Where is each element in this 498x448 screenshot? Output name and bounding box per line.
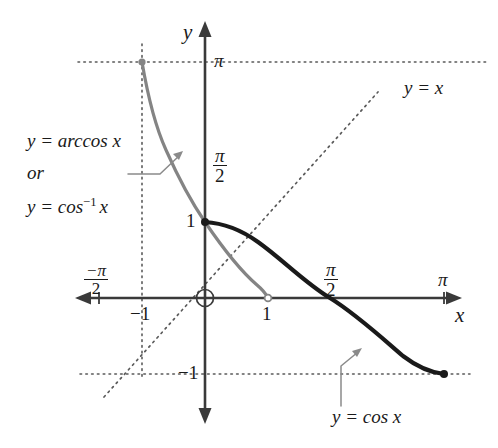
arccos-endpoint-left — [138, 58, 145, 65]
plot-area — [0, 0, 498, 448]
x-tick-label-minus-pi-over-2: −π 2 — [84, 262, 108, 298]
cosine-curve-label: y = cos x — [332, 407, 401, 426]
y-axis-label: y — [183, 22, 192, 43]
y-tick-pi-over-2-numerator: π — [213, 146, 227, 165]
x-tick-label-minus-one: −1 — [130, 304, 150, 323]
x-tick-label-one: 1 — [262, 304, 272, 323]
identity-line-label: y = x — [404, 78, 443, 97]
math-figure: y x π π 2 1 −1 1 −1 π π 2 −π 2 y = arcco… — [0, 0, 498, 448]
x-tick-label-pi-over-2: π 2 — [324, 260, 338, 300]
arccos-label-line-3: y = cos−1x — [27, 196, 108, 216]
x-axis-label: x — [455, 305, 464, 326]
x-tick-pi-over-2-numerator: π — [324, 260, 338, 279]
y-tick-pi-over-2-denominator: 2 — [213, 165, 227, 185]
arccos-label-prefix: y = cos — [27, 196, 83, 217]
arccos-leader-arrowhead — [173, 151, 183, 160]
y-tick-label-pi-over-2: π 2 — [213, 146, 227, 186]
arccos-label-exponent: −1 — [83, 195, 96, 209]
y-axis-arrow-down — [199, 408, 212, 424]
cosine-leader-line — [341, 352, 358, 406]
x-tick-pi-over-2-denominator: 2 — [324, 279, 338, 299]
y-tick-label-pi: π — [214, 51, 224, 70]
y-axis-arrow-up — [199, 21, 212, 37]
x-tick-minus-pi-over-2-denominator: 2 — [84, 279, 108, 297]
cosine-endpoint-right — [440, 370, 448, 378]
arccos-label-suffix: x — [96, 196, 107, 217]
x-tick-minus-pi-over-2-numerator: −π — [84, 262, 108, 279]
x-tick-label-pi: π — [438, 270, 448, 289]
arccos-label-line-1: y = arccos x — [27, 131, 121, 150]
identity-line — [104, 92, 378, 397]
y-tick-label-one: 1 — [186, 211, 196, 230]
y-tick-label-minus-one: −1 — [178, 363, 198, 382]
arccos-endpoint-right — [265, 295, 272, 302]
cosine-endpoint-left — [201, 218, 209, 226]
arccos-label-line-2: or — [27, 163, 44, 182]
